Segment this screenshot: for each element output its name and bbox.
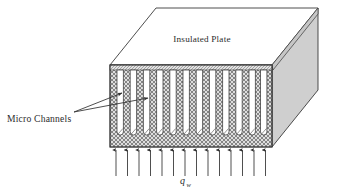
front-top-rim (110, 65, 272, 70)
micro-channel (209, 70, 215, 135)
figure-root: Insulated Plate Micro Channels q w (0, 0, 340, 192)
heat-flux-label: q w (180, 175, 192, 188)
micro-channel (236, 70, 242, 135)
micro-channel (170, 70, 176, 135)
heat-sink-block (110, 8, 318, 147)
micro-channel (143, 70, 149, 135)
micro-channel (130, 70, 136, 135)
micro-channel (249, 70, 255, 135)
micro-channels-label: Micro Channels (7, 113, 71, 124)
micro-channel (196, 70, 202, 135)
micro-channel (261, 70, 267, 135)
microchannel-heatsink-diagram: Insulated Plate Micro Channels q w (0, 0, 340, 192)
heat-flux-arrow-group (116, 150, 266, 176)
heat-flux-symbol: q (180, 175, 185, 186)
micro-channel (157, 70, 163, 135)
micro-channel (223, 70, 229, 135)
micro-channel (183, 70, 189, 135)
heat-flux-subscript: w (187, 181, 192, 188)
insulated-plate-label: Insulated Plate (173, 34, 230, 44)
